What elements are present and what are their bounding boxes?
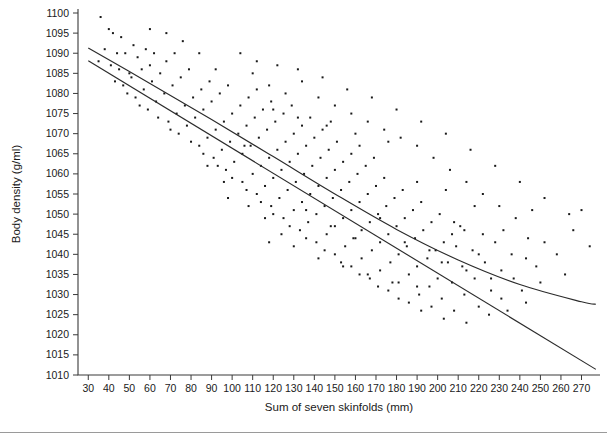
data-point (194, 117, 196, 119)
data-point (396, 225, 398, 227)
data-point (428, 249, 430, 251)
data-point (317, 257, 319, 259)
data-point (455, 245, 457, 247)
data-point (387, 141, 389, 143)
y-tick-label: 1030 (46, 288, 70, 300)
data-point (328, 149, 330, 151)
data-point (320, 157, 322, 159)
x-tick-label: 120 (264, 382, 282, 394)
data-point (299, 229, 301, 231)
data-point (513, 277, 515, 279)
data-point (359, 145, 361, 147)
x-tick-label: 270 (573, 382, 591, 394)
data-point (461, 265, 463, 267)
y-tick-label: 1080 (46, 87, 70, 99)
data-point (352, 237, 354, 239)
data-point (301, 80, 303, 82)
data-point (385, 205, 387, 207)
y-tick-label: 1095 (46, 27, 70, 39)
data-point (367, 193, 369, 195)
data-point (412, 209, 414, 211)
data-point (465, 181, 467, 183)
data-point (418, 294, 420, 296)
data-point (420, 121, 422, 123)
data-point (100, 16, 102, 18)
x-tick-label: 230 (491, 382, 509, 394)
data-point (437, 277, 439, 279)
data-point (453, 221, 455, 223)
data-point (365, 165, 367, 167)
data-point (104, 48, 106, 50)
data-point (256, 193, 258, 195)
data-point (289, 161, 291, 163)
data-point (223, 121, 225, 123)
x-tick-label: 150 (326, 382, 344, 394)
data-point (408, 273, 410, 275)
data-point (309, 117, 311, 119)
data-point (474, 277, 476, 279)
data-point (190, 141, 192, 143)
y-tick-label: 1010 (46, 369, 70, 381)
data-point (478, 253, 480, 255)
x-tick-label: 190 (408, 382, 426, 394)
data-point (233, 161, 235, 163)
data-point (488, 314, 490, 316)
y-tick-label: 1045 (46, 228, 70, 240)
data-point (334, 253, 336, 255)
data-point (237, 133, 239, 135)
data-point (283, 113, 285, 115)
data-point (188, 68, 190, 70)
data-point (120, 36, 122, 38)
data-point (420, 201, 422, 203)
data-point (498, 205, 500, 207)
data-point (252, 173, 254, 175)
data-point (172, 84, 174, 86)
y-axis-title: Body density (g/ml) (10, 145, 22, 244)
data-point (285, 141, 287, 143)
data-point (568, 213, 570, 215)
data-point (293, 133, 295, 135)
y-tick-label: 1025 (46, 308, 70, 320)
x-tick-label: 50 (124, 382, 136, 394)
x-tick-label: 170 (367, 382, 385, 394)
data-point (348, 181, 350, 183)
data-point (564, 273, 566, 275)
data-point (248, 205, 250, 207)
data-point (217, 165, 219, 167)
data-point (383, 129, 385, 131)
data-point (268, 157, 270, 159)
data-point (535, 265, 537, 267)
data-point (256, 60, 258, 62)
data-point (420, 310, 422, 312)
data-point (198, 52, 200, 54)
data-point (124, 52, 126, 54)
data-point (252, 72, 254, 74)
data-point (387, 290, 389, 292)
data-point (422, 229, 424, 231)
data-point (297, 68, 299, 70)
y-tick-label: 1015 (46, 348, 70, 360)
y-tick-label: 1060 (46, 167, 70, 179)
data-point (270, 100, 272, 102)
x-axis-title: Sum of seven skinfolds (mm) (265, 401, 413, 413)
data-point (428, 286, 430, 288)
x-tick-label: 240 (511, 382, 529, 394)
y-tick-label: 1065 (46, 147, 70, 159)
data-point (472, 249, 474, 251)
data-point (268, 84, 270, 86)
data-point (430, 221, 432, 223)
data-point (391, 281, 393, 283)
data-point (215, 68, 217, 70)
data-point (280, 233, 282, 235)
data-point (439, 213, 441, 215)
data-point (433, 157, 435, 159)
data-point (404, 217, 406, 219)
data-point (330, 121, 332, 123)
data-point (447, 261, 449, 263)
data-point (484, 261, 486, 263)
data-point (334, 225, 336, 227)
data-point (336, 141, 338, 143)
data-point (525, 302, 527, 304)
data-point (406, 245, 408, 247)
plot-background (0, 0, 607, 440)
